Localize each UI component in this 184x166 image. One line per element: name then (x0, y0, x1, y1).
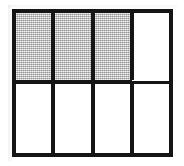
grid-cell-r0c0 (16, 13, 55, 80)
grid-row-bottom (16, 80, 169, 153)
grid-cell-r1c1 (55, 80, 94, 153)
grid-cell-r1c3 (134, 80, 169, 153)
figure-title: Shaded fraction grid (0, 0, 1, 1)
grid-cell-r1c0 (16, 80, 55, 153)
grid-row-top (16, 13, 169, 80)
grid-cell-r0c1 (55, 13, 94, 80)
figure-canvas: Shaded fraction grid (0, 0, 184, 166)
grid-cell-r0c2 (95, 13, 134, 80)
grid-cell-r1c2 (95, 80, 134, 153)
grid-cell-r0c3 (134, 13, 169, 80)
fraction-grid (12, 9, 173, 157)
